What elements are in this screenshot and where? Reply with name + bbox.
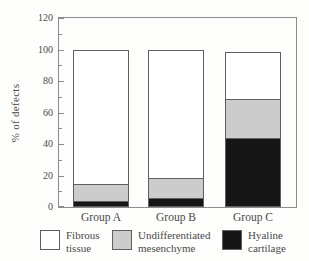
y-major-tick <box>59 113 64 114</box>
ytick-label: 40 <box>0 138 53 150</box>
ytick-label: 80 <box>0 75 53 87</box>
legend-label-line1: Undifferentiated <box>138 229 211 241</box>
y-minor-tick <box>59 160 62 161</box>
ytick-label: 120 <box>0 12 53 24</box>
y-major-tick <box>59 18 64 19</box>
bar-segment-fibrous-tissue <box>148 50 204 179</box>
y-major-tick <box>59 206 64 207</box>
bar-segment-hyaline-cartilage <box>225 138 281 207</box>
x-category-label: Group C <box>213 211 293 223</box>
y-minor-tick <box>59 65 62 66</box>
hyaline-cartilage-swatch <box>222 230 242 250</box>
ytick-label: 20 <box>0 170 53 182</box>
legend-label-line2: mesenchyme <box>138 242 195 254</box>
x-category-label: Group A <box>61 211 141 223</box>
stacked-bar-chart-figure: % of defects 020406080100120 Group AGrou… <box>0 0 309 261</box>
legend-label-line1: Hyaline <box>248 229 283 241</box>
legend-label-line2: cartilage <box>248 242 286 254</box>
bar-segment-undifferentiated-mesenchyme <box>148 178 204 199</box>
x-category-label: Group B <box>136 211 216 223</box>
bar-segment-undifferentiated-mesenchyme <box>73 184 129 202</box>
y-major-tick <box>59 81 64 82</box>
ytick-label: 100 <box>0 44 53 56</box>
y-minor-tick <box>59 34 62 35</box>
bar-segment-fibrous-tissue <box>73 50 129 185</box>
y-major-tick <box>59 176 64 177</box>
legend-label-line1: Fibrous <box>66 229 100 241</box>
y-minor-tick <box>59 97 62 98</box>
y-major-tick <box>59 144 64 145</box>
y-minor-tick <box>59 191 62 192</box>
bar-segment-fibrous-tissue <box>225 52 281 100</box>
bar-segment-hyaline-cartilage <box>148 198 204 207</box>
y-minor-tick <box>59 128 62 129</box>
ytick-label: 60 <box>0 107 53 119</box>
bar-segment-undifferentiated-mesenchyme <box>225 99 281 139</box>
legend-label-line2: tissue <box>66 242 91 254</box>
fibrous-tissue-swatch <box>40 230 60 250</box>
y-major-tick <box>59 50 64 51</box>
undifferentiated-mesenchyme-swatch <box>112 230 132 250</box>
ytick-label: 0 <box>0 201 53 213</box>
